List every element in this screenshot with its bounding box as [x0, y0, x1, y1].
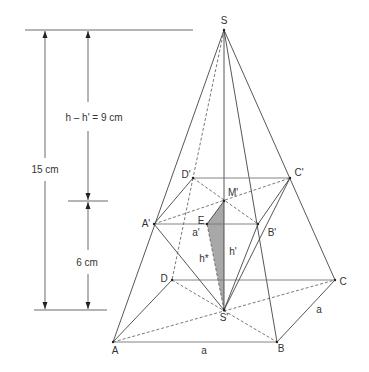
label-h-prime: h' [229, 246, 237, 257]
upper-height-label: h – h' = 9 cm [65, 112, 122, 123]
edge-B-prime-C-prime [258, 178, 290, 224]
label-a-base-front: a [201, 345, 207, 356]
shaded-right-triangle [207, 201, 224, 310]
label-B-prime: B' [268, 227, 277, 238]
point-D-prime [192, 177, 194, 179]
point-A-prime [153, 223, 155, 225]
lower-height-label: 6 cm [76, 257, 98, 268]
pyramid-frustum-diagram: 15 cm h – h' = 9 cm 6 cm [0, 0, 369, 372]
total-height-label: 15 cm [31, 164, 58, 175]
edge-D-prime-D [172, 178, 193, 280]
label-E: E [198, 215, 205, 226]
point-S-prime [223, 309, 226, 312]
arrow-down-icon [43, 302, 48, 309]
point-B-prime [257, 223, 259, 225]
edge-S-A [113, 30, 224, 342]
label-C: C [339, 276, 346, 287]
label-S: S [221, 15, 228, 26]
label-S-prime: S' [220, 312, 229, 323]
point-C [334, 279, 336, 281]
point-D [171, 279, 173, 281]
label-D-prime: D' [181, 169, 190, 180]
label-D: D [160, 273, 167, 284]
point-E [206, 223, 208, 225]
arrow-up-icon [86, 202, 91, 209]
label-a-prime: a' [192, 227, 200, 238]
arrow-up-icon [86, 31, 91, 38]
arrow-down-icon [86, 193, 91, 200]
label-M-prime: M' [228, 187, 238, 198]
label-C-prime: C' [294, 167, 303, 178]
edge-S-B [224, 30, 277, 342]
point-M-prime [223, 200, 225, 202]
edge-S-C [224, 30, 335, 280]
label-A-prime: A' [142, 218, 151, 229]
edge-A-D [113, 280, 172, 342]
point-C-prime [289, 177, 291, 179]
label-a-base-side: a [316, 304, 322, 315]
label-B: B [278, 343, 285, 354]
edge-B-C [277, 280, 335, 342]
point-A [112, 341, 114, 343]
arrow-down-icon [86, 302, 91, 309]
visible-edges [113, 30, 335, 342]
point-S [223, 29, 225, 31]
label-A: A [112, 345, 119, 356]
label-h-star: h* [199, 253, 209, 264]
dimension-lines: 15 cm h – h' = 9 cm 6 cm [25, 30, 193, 310]
line-B-prime-S-prime [224, 224, 258, 310]
arrow-up-icon [43, 31, 48, 38]
